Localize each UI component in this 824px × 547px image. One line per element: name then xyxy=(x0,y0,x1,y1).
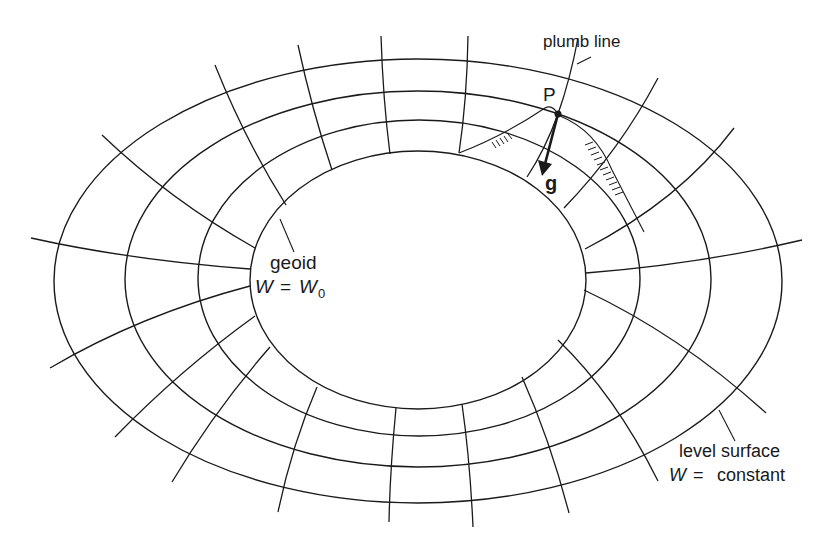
geoid-diagram: plumb line P g geoid W = W 0 level surfa… xyxy=(0,0,824,547)
geoid-eq-op: = xyxy=(280,276,291,297)
right-hatch-marks xyxy=(585,142,623,195)
level-eq-lhs: W xyxy=(669,465,688,485)
geoid-eq-rhs: W xyxy=(299,276,319,297)
level-surfaces xyxy=(54,59,782,503)
field-line xyxy=(381,36,390,154)
field-line xyxy=(462,404,473,527)
left-hatch-marks xyxy=(492,134,512,148)
geoid-eq-sub: 0 xyxy=(318,286,325,301)
gravity-vector xyxy=(545,114,558,164)
field-line xyxy=(102,135,255,248)
geoid-leader xyxy=(280,219,294,252)
field-line xyxy=(172,347,270,482)
geoid-eq-lhs: W xyxy=(255,276,275,297)
field-line xyxy=(459,36,468,153)
field-line xyxy=(215,65,286,205)
level-surface-label: level surface xyxy=(679,441,780,461)
plumb-line-label: plumb line xyxy=(543,32,621,51)
field-line xyxy=(586,240,802,273)
geoid-equation: W = W 0 xyxy=(255,276,325,301)
field-line xyxy=(31,238,250,269)
field-line xyxy=(584,290,766,413)
left-hatched-curve xyxy=(459,107,558,153)
level-eq-op: = xyxy=(693,465,704,485)
level-surface-equation: W = constant xyxy=(669,465,785,485)
field-line xyxy=(558,340,658,481)
plumb-line-leader xyxy=(577,57,591,64)
level-surface-leader xyxy=(719,410,735,441)
field-line xyxy=(585,128,734,249)
level-eq-rhs: constant xyxy=(717,465,785,485)
geoid-label: geoid xyxy=(270,252,317,273)
field-line xyxy=(564,78,658,208)
field-line xyxy=(298,45,332,170)
level-surface-2 xyxy=(125,91,711,467)
field-line xyxy=(389,408,396,522)
point-p-label: P xyxy=(543,84,556,105)
field-line xyxy=(115,316,255,437)
gravity-label: g xyxy=(545,172,557,194)
